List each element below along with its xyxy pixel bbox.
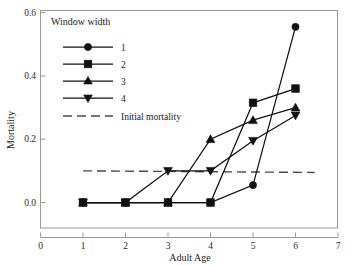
x-tick-label-5: 5 [251,241,256,251]
legend-label-2: 2 [121,60,126,70]
x-tick-label-2: 2 [123,241,128,251]
mortality-vs-adult-age-chart: 0.0 0.2 0.4 0.6 Mortality 0 1 2 3 4 5 [0,0,351,265]
x-tick-label-3: 3 [166,241,171,251]
x-tick-label-4: 4 [208,241,213,251]
y-axis-title: Mortality [5,111,16,149]
legend-label-1: 1 [121,43,126,53]
square-marker-icon [292,85,300,93]
y-tick-label-1: 0.2 [24,134,36,144]
square-marker-icon [84,60,92,68]
x-tick-label-0: 0 [38,241,43,251]
y-tick-label-0: 0.0 [24,198,36,208]
y-tick-label-3: 0.6 [24,8,36,18]
legend-label-4: 4 [121,94,126,104]
square-marker-icon [207,199,215,207]
figure-container: 0.0 0.2 0.4 0.6 Mortality 0 1 2 3 4 5 [0,0,351,265]
circle-marker-icon [292,23,299,30]
legend-title: Window width [51,16,110,27]
circle-marker-icon [84,43,91,50]
x-axis-title: Adult Age [169,252,211,263]
chart-background [0,0,351,265]
x-tick-label-7: 7 [336,241,341,251]
legend-label-reference: Initial mortality [121,112,181,122]
x-tick-label-6: 6 [293,241,298,251]
y-tick-label-2: 0.4 [24,71,36,81]
square-marker-icon [249,99,257,107]
x-tick-label-1: 1 [81,241,86,251]
circle-marker-icon [249,181,256,188]
legend-label-3: 3 [121,77,126,87]
